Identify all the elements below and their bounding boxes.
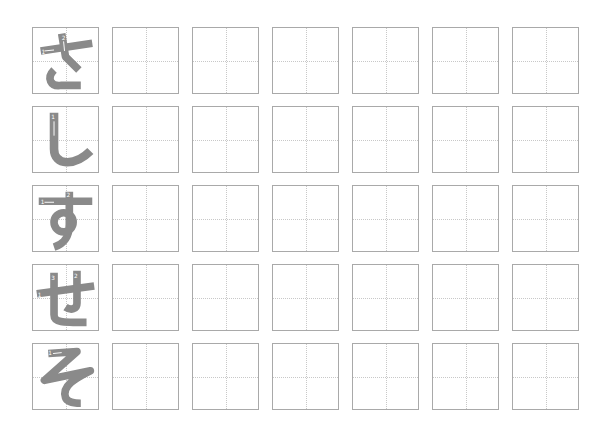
practice-box[interactable]: [192, 343, 259, 410]
practice-box[interactable]: [192, 27, 259, 94]
stroke-order-su-icon: 1 2: [33, 186, 98, 251]
practice-box[interactable]: [272, 343, 339, 410]
practice-box[interactable]: [512, 185, 579, 252]
stroke-order-sa-icon: 1 2: [33, 28, 98, 93]
practice-box[interactable]: [512, 106, 579, 173]
svg-text:1: 1: [38, 292, 42, 298]
practice-box[interactable]: [192, 106, 259, 173]
practice-box[interactable]: [352, 106, 419, 173]
model-box-sa: さ 1 2: [32, 27, 99, 94]
practice-box[interactable]: [432, 185, 499, 252]
practice-box[interactable]: [432, 27, 499, 94]
practice-box[interactable]: [352, 264, 419, 331]
svg-text:3: 3: [51, 275, 55, 281]
practice-box[interactable]: [272, 185, 339, 252]
practice-box[interactable]: [272, 27, 339, 94]
practice-box[interactable]: [272, 106, 339, 173]
model-box-su: す 1 2: [32, 185, 99, 252]
practice-worksheet: さ 1 2 し 1: [0, 0, 611, 430]
svg-text:1: 1: [51, 114, 55, 120]
practice-box[interactable]: [512, 27, 579, 94]
practice-box[interactable]: [112, 27, 179, 94]
practice-box[interactable]: [112, 185, 179, 252]
practice-box[interactable]: [112, 343, 179, 410]
practice-box[interactable]: [352, 343, 419, 410]
svg-text:2: 2: [74, 273, 78, 279]
practice-box[interactable]: [192, 185, 259, 252]
practice-box[interactable]: [512, 264, 579, 331]
svg-text:1: 1: [48, 350, 52, 356]
svg-text:1: 1: [41, 199, 45, 205]
stroke-order-so-icon: 1: [33, 344, 98, 409]
model-box-so: そ 1: [32, 343, 99, 410]
practice-box[interactable]: [272, 264, 339, 331]
svg-text:2: 2: [66, 192, 70, 198]
svg-text:2: 2: [62, 35, 66, 41]
practice-box[interactable]: [112, 106, 179, 173]
practice-box[interactable]: [352, 185, 419, 252]
practice-box[interactable]: [112, 264, 179, 331]
practice-box[interactable]: [192, 264, 259, 331]
stroke-order-shi-icon: 1: [33, 107, 98, 172]
practice-box[interactable]: [432, 343, 499, 410]
practice-box[interactable]: [352, 27, 419, 94]
practice-box[interactable]: [432, 264, 499, 331]
svg-text:1: 1: [42, 49, 46, 55]
stroke-order-se-icon: 1 2 3: [33, 265, 98, 330]
model-box-se: せ 1 2 3: [32, 264, 99, 331]
model-box-shi: し 1: [32, 106, 99, 173]
practice-box[interactable]: [512, 343, 579, 410]
practice-box[interactable]: [432, 106, 499, 173]
